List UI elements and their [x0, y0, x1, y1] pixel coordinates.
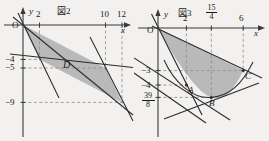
figure-2-y-tick-minus5: −5: [5, 63, 15, 72]
figure-pair-diagram: 図2 y x O 2 10 12 −4 −5 −9 D: [0, 0, 269, 141]
figure-3-x-tick-2: 2: [183, 14, 188, 23]
figure-3-x-tick-6: 6: [239, 14, 244, 23]
figure-3-point-label-B: B: [209, 99, 215, 108]
figure-3-point-label-A: A: [188, 86, 194, 95]
figure-3-origin-label: O: [147, 26, 154, 35]
figure-3-y-tick-fraction-numerator: 39: [141, 92, 155, 100]
figure-3-y-tick-minus3: −3: [141, 66, 151, 75]
figure-3-y-tick-fraction: 39 8: [141, 92, 155, 110]
figure-3-x-tick-fraction-denominator: 4: [205, 13, 218, 21]
figure-3-point-label-C: C: [245, 72, 251, 81]
figure-3-y-axis-label: y: [164, 10, 168, 19]
figure-2-x-tick-2: 2: [36, 10, 41, 19]
figure-3-y-tick-fraction-denominator: 8: [141, 101, 155, 109]
figure-3-y-tick-minus4: −4: [141, 81, 151, 90]
figure-2-x-axis-label: x: [121, 26, 125, 35]
figure-3-x-axis-label: x: [254, 29, 258, 38]
figure-2: 図2 y x O 2 10 12 −4 −5 −9 D: [0, 0, 134, 141]
figure-3-x-tick-fraction-numerator: 15: [205, 4, 218, 12]
figure-2-y-tick-minus9: −9: [5, 98, 15, 107]
figure-2-origin-label: O: [12, 21, 19, 30]
figure-3: 図3 y x O 2 6 15 4 −3 −4 39 8 A B C: [134, 0, 269, 141]
figure-2-y-axis-label: y: [29, 7, 33, 16]
figure-2-caption: 図2: [57, 7, 71, 16]
figure-2-x-tick-12: 12: [117, 10, 126, 19]
figure-3-x-tick-fraction: 15 4: [205, 4, 218, 22]
figure-2-x-tick-10: 10: [100, 10, 109, 19]
figure-2-region-label: D: [63, 60, 70, 70]
figure-2-canvas: [0, 0, 134, 141]
